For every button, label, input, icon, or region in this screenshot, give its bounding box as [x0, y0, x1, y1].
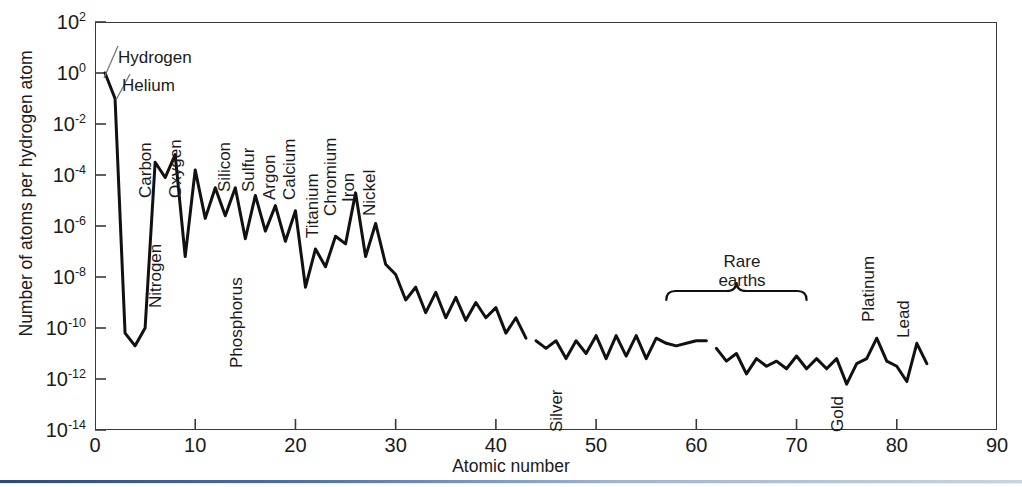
page-footer-rule-2: [0, 483, 1022, 484]
x-tick-label: 40: [485, 434, 507, 457]
x-tick-label: 10: [184, 434, 206, 457]
element-label-phosphorus: Phosphorus: [227, 277, 247, 368]
rare-earths-line2: earths: [687, 271, 797, 290]
element-label-lead: Lead: [894, 300, 914, 338]
x-axis-ticks: [195, 419, 897, 430]
element-label-chromium: Chromium: [321, 138, 341, 216]
x-tick-label: 20: [284, 434, 306, 457]
element-label-carbon: Carbon: [136, 142, 156, 198]
rare-earths-line1: Rare: [687, 252, 797, 271]
element-label-titanium: Titanium: [303, 173, 323, 238]
element-label-calcium: Calcium: [280, 139, 300, 200]
x-tick-label: 60: [685, 434, 707, 457]
element-label-argon: Argon: [260, 155, 280, 200]
element-label-nitrogen: Nitrogen: [146, 244, 166, 308]
x-tick-label: 80: [886, 434, 908, 457]
element-label-oxygen: Oxygen: [166, 139, 186, 198]
element-label-platinum: Platinum: [859, 256, 879, 322]
element-label-nickel: Nickel: [360, 170, 380, 216]
x-tick-label: 90: [986, 434, 1008, 457]
x-axis-title: Atomic number: [0, 456, 1022, 477]
rare-earths-group-label: Rare earths: [687, 252, 797, 290]
element-label-gold: Gold: [828, 396, 848, 432]
element-label-silver: Silver: [547, 389, 567, 432]
x-tick-label: 50: [585, 434, 607, 457]
element-label-hydrogen: Hydrogen: [118, 48, 192, 68]
element-label-silicon: Silicon: [215, 142, 235, 192]
x-tick-label: 0: [89, 434, 100, 457]
x-tick-label: 30: [385, 434, 407, 457]
element-label-helium: Helium: [122, 76, 175, 96]
element-label-sulfur: Sulfur: [239, 148, 259, 192]
x-tick-label: 70: [785, 434, 807, 457]
element-label-iron: Iron: [339, 173, 359, 202]
y-axis-ticks: [95, 22, 106, 430]
chart-page: 10210010-210-410-610-810-1010-1210-14 Nu…: [0, 0, 1022, 487]
